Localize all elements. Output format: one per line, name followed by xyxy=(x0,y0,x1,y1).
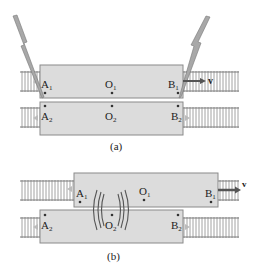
point-o1-dot xyxy=(143,199,146,202)
label-a2: A xyxy=(41,219,49,231)
label-a1: A xyxy=(76,187,84,199)
train-car-2-b: A2 O2 B2 xyxy=(33,210,190,243)
label-o2: O xyxy=(105,110,113,122)
velocity-label-b: v xyxy=(242,179,247,189)
point-a2-dot xyxy=(44,214,47,217)
label-a1: A xyxy=(41,78,49,90)
point-a1-dot xyxy=(79,201,82,204)
label-b1: B xyxy=(168,78,175,90)
point-b2-dot xyxy=(177,214,180,217)
label-o1: O xyxy=(139,185,147,197)
point-b1-dot xyxy=(210,201,213,204)
point-o2-dot xyxy=(111,214,114,217)
velocity-label-a: v xyxy=(208,75,213,86)
caption-b: (b) xyxy=(107,250,120,263)
train-car-1-b: A1 O1 B1 xyxy=(67,173,218,207)
point-o2-dot xyxy=(111,105,114,108)
point-a2-dot xyxy=(44,105,47,108)
point-b1-dot xyxy=(177,92,180,95)
label-o2: O xyxy=(105,219,113,231)
caption-a: (a) xyxy=(110,140,123,153)
label-a2: A xyxy=(41,110,49,122)
figure-a: A1 O1 B1 A2 O2 B2 v (a) xyxy=(13,15,239,153)
label-b2: B xyxy=(171,219,178,231)
point-o1-dot xyxy=(111,92,114,95)
label-b1: B xyxy=(205,187,212,199)
train-car-1-a: A1 O1 B1 xyxy=(40,65,183,98)
label-o1: O xyxy=(105,78,113,90)
figure-b: A1 O1 B1 A2 O2 B2 xyxy=(20,173,247,263)
point-a1-dot xyxy=(44,92,47,95)
point-b2-dot xyxy=(177,105,180,108)
relativity-trains-diagram: A1 O1 B1 A2 O2 B2 v (a) xyxy=(0,0,257,267)
label-b2: B xyxy=(171,110,178,122)
